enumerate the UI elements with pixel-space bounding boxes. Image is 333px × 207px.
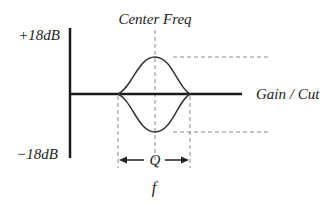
q-arrowhead-left-icon [119, 157, 127, 164]
gain-max-label: +18dB [18, 27, 60, 43]
center-freq-label: Center Freq [118, 11, 192, 27]
cut-curve [118, 94, 190, 132]
gain-cut-label: Gain / Cut [256, 86, 320, 102]
eq-diagram: Center Freq +18dB −18dB Gain / Cut Q f [0, 0, 333, 207]
boost-curve [118, 57, 190, 94]
q-arrowhead-right-icon [181, 157, 189, 164]
q-label: Q [150, 152, 161, 168]
frequency-label: f [152, 179, 159, 197]
gain-min-label: −18dB [16, 146, 58, 162]
